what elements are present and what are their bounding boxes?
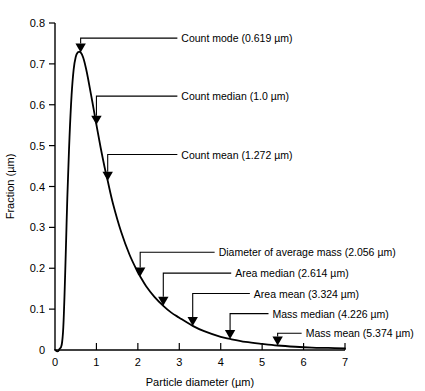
x-tick-label: 0 [52,356,58,368]
annotation-label: Mass median (4.226 µm) [273,308,389,320]
y-tick-label: 0 [39,344,45,356]
annotation-count-mean: Count mean (1.272 µm) [103,149,293,181]
x-tick-label: 5 [259,356,265,368]
y-tick-label: 0.6 [30,99,45,111]
particle-size-distribution-chart: 00.10.20.30.40.50.60.70.8 01234567 Count… [0,0,425,391]
y-tick-label: 0.3 [30,221,45,233]
leader-line [108,155,178,172]
y-tick-label: 0.8 [30,17,45,29]
y-axis-ticks: 00.10.20.30.40.50.60.70.8 [30,17,55,356]
annotation-mass-mean: Mass mean (5.374 µm) [272,327,413,345]
x-tick-label: 2 [135,356,141,368]
annotation-label: Count mode (0.619 µm) [181,32,292,44]
arrow-head-icon [103,172,113,181]
leader-line [96,96,177,116]
annotation-label: Mass mean (5.374 µm) [306,327,414,339]
annotation-label: Area median (2.614 µm) [235,267,348,279]
x-axis-title: Particle diameter (µm) [146,376,254,388]
arrow-head-icon [135,267,145,276]
x-tick-label: 1 [93,356,99,368]
annotation-count-mode: Count mode (0.619 µm) [75,32,292,52]
annotation-count-median: Count median (1.0 µm) [91,90,289,125]
leader-line [81,38,178,43]
x-tick-label: 6 [301,356,307,368]
y-tick-label: 0.1 [30,303,45,315]
chart-container: 00.10.20.30.40.50.60.70.8 01234567 Count… [0,0,425,391]
annotation-area-median: Area median (2.614 µm) [158,267,349,306]
y-axis-title: Fraction (µm) [4,154,16,220]
annotation-label: Area mean (3.324 µm) [254,288,359,300]
x-tick-label: 3 [176,356,182,368]
y-tick-label: 0.5 [30,140,45,152]
leader-line [278,333,302,336]
arrow-head-icon [272,337,282,346]
annotation-label: Count median (1.0 µm) [181,90,289,102]
y-tick-label: 0.4 [30,181,45,193]
y-tick-label: 0.2 [30,262,45,274]
arrow-head-icon [91,116,101,125]
arrow-head-icon [75,43,85,52]
leader-line [140,252,214,267]
x-tick-label: 4 [218,356,224,368]
x-tick-label: 7 [342,356,348,368]
annotation-label: Count mean (1.272 µm) [181,149,292,161]
annotation-callouts: Count mode (0.619 µm)Count median (1.0 µ… [75,32,413,345]
annotation-label: Diameter of average mass (2.056 µm) [219,246,396,258]
y-tick-label: 0.7 [30,58,45,70]
leader-line [230,314,268,330]
